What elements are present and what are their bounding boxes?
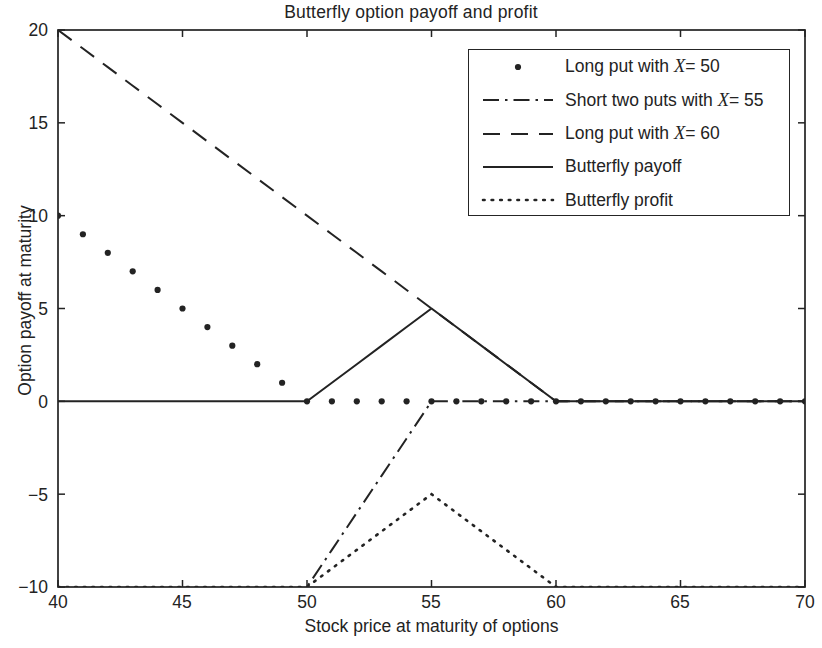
series-butterfly-profit [58, 494, 805, 587]
legend-label: Butterfly profit [565, 192, 673, 210]
legend-item-short-two-puts-with-55[interactable]: Short two puts with X= 55 [469, 84, 789, 116]
legend-swatch-solid [469, 151, 565, 183]
legend-item-butterfly-payoff[interactable]: Butterfly payoff [469, 151, 789, 183]
marker-42 [105, 250, 111, 256]
legend-item-butterfly-profit[interactable]: Butterfly profit [469, 184, 789, 216]
line-butterfly-profit [58, 494, 805, 587]
legend-item-long-put-with-50[interactable]: Long put with X= 50 [469, 51, 789, 83]
marker-57 [478, 398, 484, 404]
marker-52 [354, 398, 360, 404]
legend-item-long-put-with-60[interactable]: Long put with X= 60 [469, 118, 789, 150]
marker-53 [379, 398, 385, 404]
legend-label: Long put with X= 50 [565, 57, 720, 76]
legend-label: Long put with X= 60 [565, 124, 720, 143]
chart-legend: Long put with X= 50Short two puts with X… [468, 49, 790, 216]
marker-47 [229, 343, 235, 349]
series-butterfly-payoff [58, 309, 805, 402]
marker-49 [279, 380, 285, 386]
chart-figure: Butterfly option payoff and profit Optio… [0, 0, 822, 648]
marker-45 [179, 305, 185, 311]
legend-label: Short two puts with X= 55 [565, 91, 764, 110]
line-butterfly-payoff [58, 309, 805, 402]
marker-46 [204, 324, 210, 330]
marker-44 [155, 287, 161, 293]
legend-swatch-dotted [469, 184, 565, 216]
series-short-two-puts-with-x-55 [58, 401, 805, 648]
marker-51 [329, 398, 335, 404]
marker-54 [404, 398, 410, 404]
marker-40 [55, 213, 61, 219]
marker-48 [254, 361, 260, 367]
legend-swatch-dashed [469, 118, 565, 150]
line-short-two-puts-with-x-55 [58, 401, 805, 648]
legend-swatch-dotted-markers [469, 51, 565, 83]
marker-41 [80, 231, 86, 237]
legend-swatch-dash-dot [469, 84, 565, 116]
marker-43 [130, 268, 136, 274]
legend-label: Butterfly payoff [565, 158, 681, 176]
